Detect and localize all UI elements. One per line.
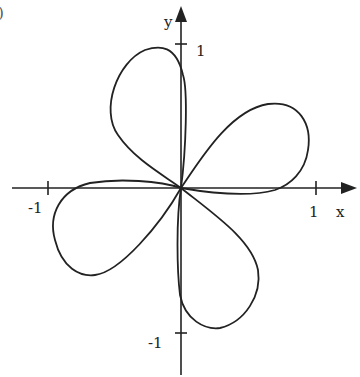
x-axis-arrow-icon <box>341 182 357 194</box>
y-axis-label: y <box>163 13 173 31</box>
x-tick-label-neg1: -1 <box>28 199 43 217</box>
x-axis-label: x <box>336 203 345 221</box>
x-tick-label-pos1: 1 <box>309 203 319 221</box>
petal-left <box>53 181 181 276</box>
y-axis-arrow-icon <box>175 6 187 22</box>
petal-upper <box>111 48 186 188</box>
y-tick-label-neg1: -1 <box>148 334 163 352</box>
y-tick-label-pos1: 1 <box>196 42 206 60</box>
polar-curve-figure: ) -1 1 1 -1 x y <box>0 0 360 377</box>
petal-lower <box>178 188 259 328</box>
figure-label-fragment: ) <box>0 4 4 22</box>
petal-right <box>181 104 309 194</box>
